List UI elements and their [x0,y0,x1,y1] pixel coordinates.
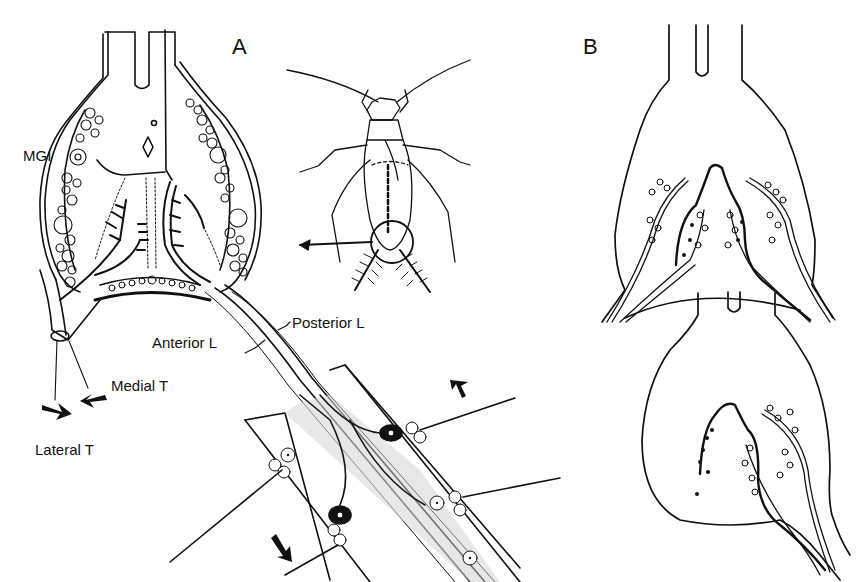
cercus-section [170,365,560,582]
down-arrow-icon [271,534,292,562]
ganglion-b-lower [642,292,850,580]
panel-label-b: B [583,36,598,58]
label-medial-t: Medial T [111,378,168,393]
up-arrow-icon [450,380,468,398]
medial-t-leader [69,341,88,388]
label-anterior-l: Anterior L [152,335,217,350]
cricket-illustration [287,60,470,292]
ganglion-b-upper [602,25,835,322]
lateral-t-arrow-icon [42,403,72,420]
label-posterior-l: Posterior L [292,315,365,330]
label-lateral-t: Lateral T [35,442,94,457]
medial-t-arrow-icon [80,394,107,408]
lateral-t-leader [55,340,57,400]
panel-label-a: A [232,36,247,58]
figure-drawing [0,0,860,582]
label-mgi: MGI [23,148,51,163]
